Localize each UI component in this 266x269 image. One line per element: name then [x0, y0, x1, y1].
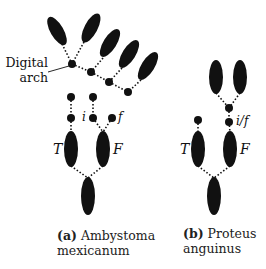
label-f: f [118, 110, 122, 124]
annotation-pointer [48, 66, 69, 72]
label-F: F [240, 141, 250, 157]
arch-node [87, 68, 95, 76]
femur [207, 177, 221, 215]
carpal-node [89, 93, 97, 101]
digit-1 [43, 14, 70, 48]
carpal-node [67, 114, 75, 122]
arch-node [68, 60, 76, 68]
annotation-line2: arch [4, 70, 48, 85]
digit-2 [78, 11, 105, 45]
caption-b: (b) Proteus anguinus [183, 226, 256, 256]
label-i-f: i/f [236, 114, 248, 128]
fibula [96, 131, 110, 167]
bones-panel-b [191, 60, 247, 215]
tibia [64, 131, 78, 167]
caption-a-line2: mexicanum [57, 243, 155, 258]
caption-b-line1: Proteus [208, 226, 257, 241]
fibulare-node [108, 114, 116, 122]
digital-arch-annotation: Digital arch [4, 55, 48, 85]
caption-a: (a) Ambystoma mexicanum [57, 228, 155, 258]
label-i: i [82, 110, 86, 124]
bones-panel-a [43, 11, 162, 215]
digit-5 [134, 49, 162, 83]
arch-node [105, 78, 113, 86]
caption-a-line1: Ambystoma [81, 228, 155, 243]
femur [81, 177, 95, 215]
carpal-node [194, 116, 202, 124]
fibula [223, 131, 237, 167]
arch-node [124, 88, 132, 96]
digit-2 [233, 60, 247, 94]
caption-a-tag: (a) [57, 228, 77, 243]
digit-4 [115, 37, 143, 71]
digit-3 [96, 26, 124, 60]
digit-1 [209, 60, 223, 94]
caption-b-line2: anguinus [183, 241, 256, 256]
tibia [191, 131, 205, 167]
annotation-line1: Digital [4, 55, 48, 70]
label-T: T [53, 141, 62, 157]
label-T: T [180, 141, 189, 157]
intermedium-node [89, 114, 97, 122]
caption-b-tag: (b) [183, 226, 204, 241]
carpal-node [67, 93, 75, 101]
arch-node [225, 104, 233, 112]
if-node [225, 118, 233, 126]
label-F: F [113, 141, 123, 157]
